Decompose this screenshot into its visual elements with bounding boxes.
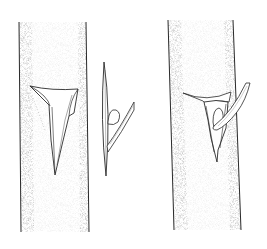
panel-bud-shield: Bud shield with leaf stalk (petiole) — [102, 62, 134, 176]
panel-bud-inserted: Bud shield inserted under bark flaps of … — [168, 20, 250, 230]
bud — [108, 110, 120, 125]
budding-illustration: T-budding sequence Rootstock with T-shap… — [0, 0, 267, 249]
petiole — [107, 102, 134, 152]
panel-stock-t-cut: Rootstock with T-shaped incision, bark f… — [19, 22, 89, 232]
